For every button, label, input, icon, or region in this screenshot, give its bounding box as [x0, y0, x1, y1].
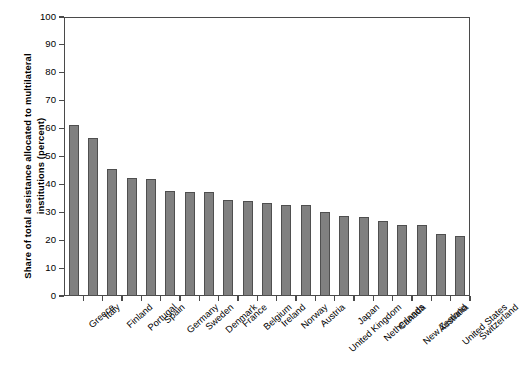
x-tick-mark: [373, 296, 374, 301]
x-tick-mark: [450, 296, 451, 301]
x-tick-mark: [160, 296, 161, 301]
x-tick-mark: [121, 296, 122, 301]
x-tick-mark: [334, 296, 335, 301]
x-tick-mark: [257, 296, 258, 301]
x-tick-mark: [199, 296, 200, 301]
x-tick-mark: [179, 296, 180, 301]
x-tick-mark: [469, 296, 470, 301]
x-tick-mark: [218, 296, 219, 301]
x-tick-mark: [315, 296, 316, 301]
x-tick-mark: [102, 296, 103, 301]
x-tick-mark: [141, 296, 142, 301]
x-tick-mark: [411, 296, 412, 301]
x-tick-mark: [392, 296, 393, 301]
x-tick-mark: [83, 296, 84, 301]
x-tick-mark: [237, 296, 238, 301]
x-tick-mark: [353, 296, 354, 301]
x-tick-mark: [431, 296, 432, 301]
x-tick-mark: [276, 296, 277, 301]
x-tick-mark: [295, 296, 296, 301]
